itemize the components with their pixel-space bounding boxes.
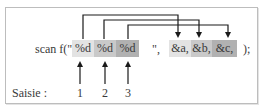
argument-c: &c,	[212, 40, 237, 57]
arrow-d2-to-b	[104, 20, 199, 39]
format-close-quote: ",	[152, 42, 160, 56]
format-specifier-2: %d	[94, 40, 116, 57]
scanf-suffix: );	[243, 42, 250, 56]
input-value-2: 2	[102, 86, 108, 100]
input-label: Saisie :	[12, 86, 47, 100]
format-specifier-3: %d	[116, 40, 139, 57]
scanf-prefix: scan f("	[35, 42, 72, 56]
argument-a: &a,	[169, 40, 191, 57]
input-value-3: 3	[125, 86, 131, 100]
input-value-1: 1	[77, 86, 83, 100]
argument-b: &b,	[191, 40, 212, 57]
format-specifier-1: %d	[72, 40, 94, 57]
arrow-d1-to-a	[83, 15, 178, 39]
